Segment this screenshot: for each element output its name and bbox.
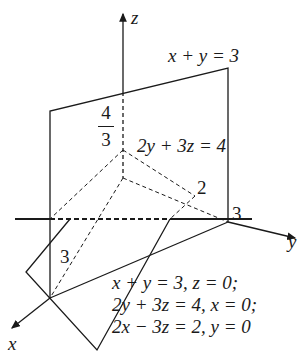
y-intercept-label: 3 — [232, 204, 242, 223]
equation-1: x + y = 3, z = 0; — [112, 272, 257, 294]
equation-3: 2x − 3z = 2, y = 0 — [112, 316, 257, 338]
z-axis-label: z — [131, 8, 138, 27]
y-axis-label: y — [288, 232, 296, 251]
x-axis — [12, 298, 50, 328]
equation-2: 2y + 3z = 4, x = 0; — [112, 294, 257, 316]
x-axis-label: x — [8, 334, 16, 353]
z-intercept-fraction: 4 3 — [98, 102, 114, 151]
y-axis — [228, 222, 295, 238]
x-intercept-label: 3 — [60, 247, 70, 266]
equation-list: x + y = 3, z = 0; 2y + 3z = 4, x = 0; 2x… — [112, 272, 257, 338]
y-mark-2: 2 — [197, 178, 207, 197]
3d-planes-diagram: z y x x + y = 3 2y + 3z = 4 4 3 2 3 3 x … — [0, 0, 308, 353]
plane2-label: 2y + 3z = 4 — [137, 136, 226, 155]
plane1-label: x + y = 3 — [168, 46, 239, 65]
